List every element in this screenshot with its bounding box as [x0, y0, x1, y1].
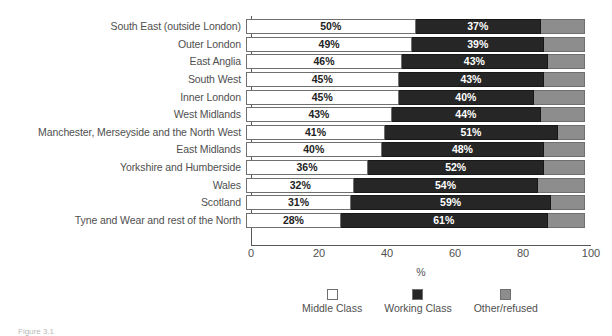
bar-value-label: 59%	[440, 197, 461, 208]
bar-segment-working-class: 43%	[402, 54, 548, 69]
bar-value-label: 52%	[445, 162, 466, 173]
legend-swatch-icon	[327, 289, 338, 300]
x-tick-label: 80	[517, 247, 529, 259]
category-label: Inner London	[0, 92, 246, 103]
bar-segment-working-class: 37%	[416, 19, 541, 34]
legend-label: Middle Class	[302, 302, 362, 314]
category-label: East Anglia	[0, 56, 246, 67]
chart-row: East Anglia46%43%	[0, 53, 612, 71]
bar-segment-other-refused	[538, 178, 585, 193]
bar-value-label: 36%	[297, 162, 318, 173]
bar-segment-other-refused	[541, 19, 585, 34]
legend-label: Other/refused	[474, 302, 538, 314]
bar-segment-middle-class: 49%	[246, 37, 412, 52]
x-tick-label: 20	[313, 247, 325, 259]
category-label: South East (outside London)	[0, 21, 246, 32]
chart-rows: South East (outside London)50%37%Outer L…	[0, 18, 612, 229]
bar-segment-working-class: 61%	[341, 213, 548, 228]
bar-track: 45%43%	[246, 72, 585, 87]
bar-segment-middle-class: 41%	[246, 125, 385, 140]
bar-value-label: 44%	[455, 109, 476, 120]
bar-segment-other-refused	[548, 213, 585, 228]
bar-segment-middle-class: 46%	[246, 54, 402, 69]
bar-value-label: 49%	[319, 39, 340, 50]
chart-legend: Middle ClassWorking ClassOther/refused	[275, 289, 565, 314]
x-tick-label: 100	[582, 247, 600, 259]
chart-row: Wales32%54%	[0, 176, 612, 194]
bar-track: 40%48%	[246, 142, 585, 157]
category-label: Yorkshire and Humberside	[0, 162, 246, 173]
bar-value-label: 43%	[460, 74, 481, 85]
category-label: South West	[0, 74, 246, 85]
bar-segment-other-refused	[534, 90, 585, 105]
legend-item[interactable]: Working Class	[384, 289, 452, 314]
bar-segment-working-class: 39%	[412, 37, 544, 52]
bar-value-label: 61%	[433, 215, 454, 226]
bar-track: 31%59%	[246, 195, 585, 210]
legend-swatch-icon	[500, 289, 511, 300]
bar-track: 32%54%	[246, 178, 585, 193]
bar-segment-middle-class: 50%	[246, 19, 416, 34]
bar-segment-working-class: 52%	[368, 160, 544, 175]
bar-segment-working-class: 54%	[354, 178, 537, 193]
category-label: East Midlands	[0, 144, 246, 155]
chart-row: Scotland31%59%	[0, 194, 612, 212]
chart-row: South East (outside London)50%37%	[0, 18, 612, 36]
bar-segment-working-class: 48%	[382, 142, 545, 157]
bar-track: 28%61%	[246, 213, 585, 228]
bar-segment-middle-class: 32%	[246, 178, 354, 193]
bar-segment-middle-class: 40%	[246, 142, 382, 157]
category-label: Outer London	[0, 39, 246, 50]
legend-item[interactable]: Middle Class	[302, 289, 362, 314]
category-label: Manchester, Merseyside and the North Wes…	[0, 127, 246, 138]
bar-segment-other-refused	[544, 72, 585, 87]
bar-segment-middle-class: 36%	[246, 160, 368, 175]
stacked-bar-chart: South East (outside London)50%37%Outer L…	[0, 0, 612, 336]
bar-value-label: 45%	[312, 74, 333, 85]
category-label: Scotland	[0, 197, 246, 208]
x-tick-label: 60	[449, 247, 461, 259]
bar-track: 41%51%	[246, 125, 585, 140]
bar-track: 45%40%	[246, 90, 585, 105]
bar-value-label: 50%	[320, 21, 341, 32]
x-axis-ticks: 020406080100	[251, 247, 591, 261]
bar-segment-other-refused	[544, 37, 585, 52]
category-label: West Midlands	[0, 109, 246, 120]
bar-value-label: 54%	[435, 180, 456, 191]
bar-value-label: 51%	[460, 127, 481, 138]
figure-caption: Figure 3.1	[18, 327, 54, 336]
category-label: Wales	[0, 180, 246, 191]
legend-swatch-icon	[412, 289, 423, 300]
bar-segment-working-class: 44%	[392, 107, 541, 122]
bar-segment-working-class: 43%	[399, 72, 545, 87]
x-axis-line	[251, 245, 591, 246]
chart-row: Yorkshire and Humberside36%52%	[0, 159, 612, 177]
bar-value-label: 40%	[455, 92, 476, 103]
bar-segment-other-refused	[558, 125, 585, 140]
bar-track: 46%43%	[246, 54, 585, 69]
bar-segment-working-class: 59%	[351, 195, 551, 210]
x-tick-label: 40	[381, 247, 393, 259]
bar-segment-working-class: 51%	[385, 125, 558, 140]
chart-row: Inner London45%40%	[0, 88, 612, 106]
bar-segment-other-refused	[548, 54, 585, 69]
bar-track: 50%37%	[246, 19, 585, 34]
legend-item[interactable]: Other/refused	[474, 289, 538, 314]
bar-value-label: 43%	[308, 109, 329, 120]
x-tick-label: 0	[248, 247, 254, 259]
bar-segment-middle-class: 31%	[246, 195, 351, 210]
bar-value-label: 39%	[467, 39, 488, 50]
bar-value-label: 32%	[290, 180, 311, 191]
chart-row: Outer London49%39%	[0, 36, 612, 54]
bar-track: 49%39%	[246, 37, 585, 52]
category-label: Tyne and Wear and rest of the North	[0, 215, 246, 226]
bar-value-label: 43%	[464, 56, 485, 67]
bar-segment-middle-class: 45%	[246, 90, 399, 105]
bar-segment-other-refused	[544, 142, 585, 157]
legend-label: Working Class	[384, 302, 452, 314]
bar-value-label: 28%	[283, 215, 304, 226]
bar-value-label: 48%	[452, 144, 473, 155]
bar-value-label: 45%	[312, 92, 333, 103]
x-axis-title: %	[251, 266, 591, 278]
bar-value-label: 46%	[313, 56, 334, 67]
